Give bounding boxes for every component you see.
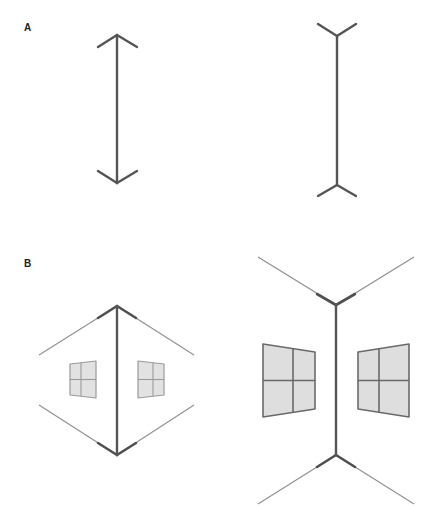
- fin-bottom-left: [98, 443, 117, 455]
- fin-top-right: [336, 294, 355, 305]
- fin-top-right: [117, 35, 137, 47]
- window-left: [70, 361, 96, 398]
- window-right: [358, 344, 409, 417]
- figure-arrow-outward: [318, 24, 356, 196]
- fin-top-left: [317, 294, 336, 305]
- fin-bottom-left: [318, 185, 337, 196]
- fin-bottom-right: [337, 185, 356, 196]
- figure-arrow-inward: [98, 35, 137, 183]
- fin-bottom-right: [117, 443, 136, 455]
- fin-bottom-left: [98, 171, 117, 183]
- window-left: [263, 344, 315, 417]
- fin-top-left: [318, 24, 337, 36]
- fin-top-right: [337, 24, 356, 36]
- fin-bottom-right: [336, 455, 355, 467]
- panel-a: [98, 24, 356, 196]
- panel-b: [39, 257, 414, 504]
- fin-bottom-right: [117, 171, 137, 183]
- window-right: [138, 361, 164, 398]
- illusion-figure: [0, 0, 432, 516]
- fin-top-right: [117, 306, 136, 318]
- fin-top-left: [98, 306, 117, 318]
- figure-outside-corner: [39, 306, 194, 455]
- fin-top-left: [98, 35, 117, 47]
- figure-inside-corner: [258, 257, 414, 504]
- fin-bottom-left: [317, 455, 336, 467]
